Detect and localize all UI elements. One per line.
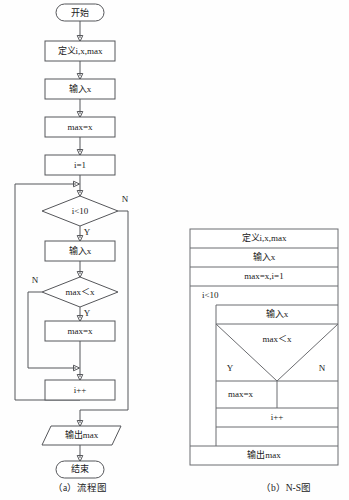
flow-node-output-label: 输出max xyxy=(65,429,99,440)
ns-row-loop-condition-label: i<10 xyxy=(202,290,219,300)
flow-node-declare-label: 定义i,x,max xyxy=(58,45,103,56)
flow-node-compare-label: max＜x xyxy=(66,287,95,297)
ns-row-assign-label: max=x,i=1 xyxy=(244,271,283,281)
ns-row-increment-label: i++ xyxy=(271,412,284,422)
flow-node-start-label: 开始 xyxy=(71,7,89,18)
flow-node-end-label: 结束 xyxy=(71,463,89,474)
flow-node-input-x-2-label: 输入x xyxy=(69,245,92,256)
flowchart-caption: （a）流程图 xyxy=(53,482,107,493)
ns-row-update-max-label: max=x xyxy=(228,389,254,399)
ns-row-input-x-2-label: 输入x xyxy=(266,308,289,319)
ns-branch-yes-label: Y xyxy=(227,363,234,373)
flow-node-assign-max-label: max=x xyxy=(67,122,93,132)
flow-branch-loop-no-label: N xyxy=(122,194,129,204)
ns-row-declare-label: 定义i,x,max xyxy=(242,232,287,243)
ns-diagram-caption: （b）N-S图 xyxy=(261,482,311,493)
ns-outer-frame xyxy=(190,229,338,465)
flow-node-input-x-1-label: 输入x xyxy=(69,83,92,94)
figure-page: 开始 定义i,x,max 输入x max=x i=1 i< xyxy=(0,0,349,500)
flow-node-assign-i-label: i=1 xyxy=(74,160,86,170)
flow-node-increment-label: i++ xyxy=(74,385,87,395)
ns-row-input-x-1-label: 输入x xyxy=(253,251,276,262)
ns-row-compare-label: max＜x xyxy=(263,334,292,344)
flow-branch-loop-yes-label: Y xyxy=(84,227,91,237)
ns-branch-no-label: N xyxy=(319,363,326,373)
ns-row-output-label: 输出max xyxy=(247,449,281,460)
flow-branch-compare-no-label: N xyxy=(32,275,39,285)
flow-branch-compare-yes-label: Y xyxy=(84,308,91,318)
figure-canvas: 开始 定义i,x,max 输入x max=x i=1 i< xyxy=(0,0,349,500)
flow-node-update-max-label: max=x xyxy=(67,326,93,336)
flow-node-loop-condition-label: i<10 xyxy=(72,206,89,216)
